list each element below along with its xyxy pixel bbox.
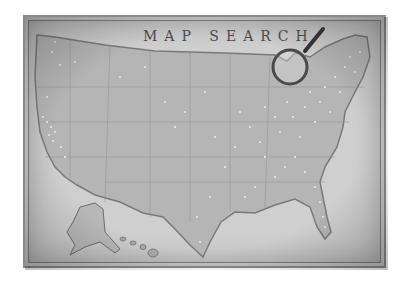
us-map[interactable] <box>25 17 388 270</box>
map-title: MAP SEARCH <box>143 28 315 44</box>
map-frame: MAP SEARCH <box>23 15 386 268</box>
